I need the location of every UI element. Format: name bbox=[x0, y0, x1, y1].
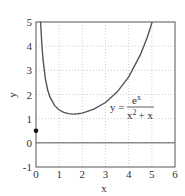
x-tick-label: 3 bbox=[103, 168, 109, 180]
x-tick-label: 4 bbox=[126, 168, 132, 180]
y-tick-label: 3 bbox=[27, 64, 33, 76]
marked-point bbox=[34, 128, 39, 133]
x-tick-labels: 0123456 bbox=[33, 168, 178, 180]
y-tick-label: 1 bbox=[27, 113, 33, 125]
x-tick-label: 6 bbox=[172, 168, 178, 180]
y-axis-label: y bbox=[6, 92, 18, 98]
equation-denominator: x2+ x bbox=[127, 108, 153, 121]
x-tick-label: 2 bbox=[80, 168, 86, 180]
y-tick-labels: -1012345 bbox=[23, 16, 33, 173]
chart: 0123456 -1012345 x y y = ex x2+ x bbox=[0, 0, 185, 196]
y-tick-label: 4 bbox=[27, 40, 33, 52]
y-tick-label: 5 bbox=[27, 16, 33, 28]
y-tick-label: -1 bbox=[23, 161, 32, 173]
grid-lines bbox=[36, 22, 175, 167]
equation-numerator: ex bbox=[132, 93, 141, 106]
y-tick-label: 0 bbox=[27, 137, 33, 149]
equation-lhs: y = bbox=[110, 101, 124, 113]
x-axis-label: x bbox=[101, 182, 107, 194]
y-tick-label: 2 bbox=[27, 89, 33, 101]
x-tick-label: 1 bbox=[56, 168, 62, 180]
x-tick-label: 5 bbox=[149, 168, 155, 180]
equation-annotation: y = ex x2+ x bbox=[110, 93, 154, 121]
x-tick-label: 0 bbox=[33, 168, 39, 180]
